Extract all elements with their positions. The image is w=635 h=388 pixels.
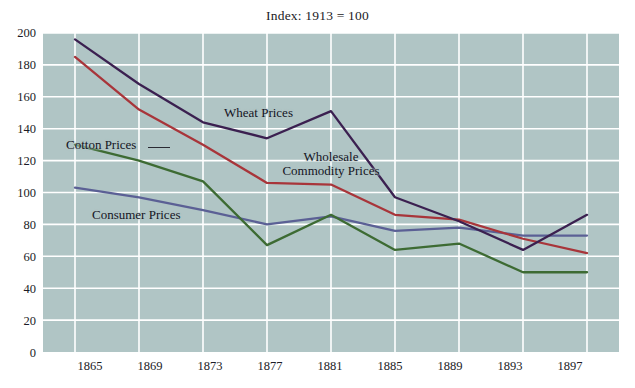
y-tick-140: 140: [0, 123, 36, 136]
y-tick-100: 100: [0, 187, 36, 200]
y-tick-200: 200: [0, 27, 36, 40]
x-tick-1877: 1877: [240, 360, 300, 373]
y-tick-60: 60: [0, 251, 36, 264]
x-tick-1897: 1897: [540, 360, 600, 373]
series-label-wholesale-line2: Commodity Prices: [282, 164, 380, 179]
series-label-cotton: Cotton Prices: [66, 138, 136, 153]
y-tick-40: 40: [0, 283, 36, 296]
x-tick-1869: 1869: [120, 360, 180, 373]
x-tick-1865: 1865: [60, 360, 120, 373]
gridlines: [43, 33, 619, 352]
plot-area: [43, 33, 619, 352]
x-tick-1873: 1873: [180, 360, 240, 373]
x-tick-1893: 1893: [480, 360, 540, 373]
y-tick-0: 0: [0, 347, 36, 360]
chart-plot-svg: [43, 33, 619, 352]
cotton-leader-line: [148, 147, 170, 148]
x-tick-1885: 1885: [360, 360, 420, 373]
y-tick-120: 120: [0, 155, 36, 168]
y-tick-180: 180: [0, 59, 36, 72]
y-tick-160: 160: [0, 91, 36, 104]
y-tick-20: 20: [0, 315, 36, 328]
chart-title: Index: 1913 = 100: [0, 8, 635, 24]
chart-figure: Index: 1913 = 100 200 180 160 140 120 10…: [0, 0, 635, 388]
series-label-wheat: Wheat Prices: [224, 106, 293, 121]
y-tick-80: 80: [0, 219, 36, 232]
x-tick-1889: 1889: [420, 360, 480, 373]
series-label-consumer: Consumer Prices: [92, 208, 180, 223]
x-tick-1881: 1881: [300, 360, 360, 373]
